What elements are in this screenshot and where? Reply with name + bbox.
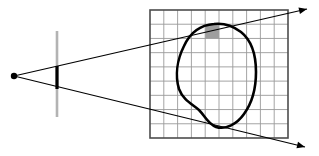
figure-root: Ray casting through an image plane onto …	[0, 0, 319, 156]
eye-point	[11, 73, 17, 79]
ray-casting-diagram: Ray casting through an image plane onto …	[0, 0, 319, 156]
